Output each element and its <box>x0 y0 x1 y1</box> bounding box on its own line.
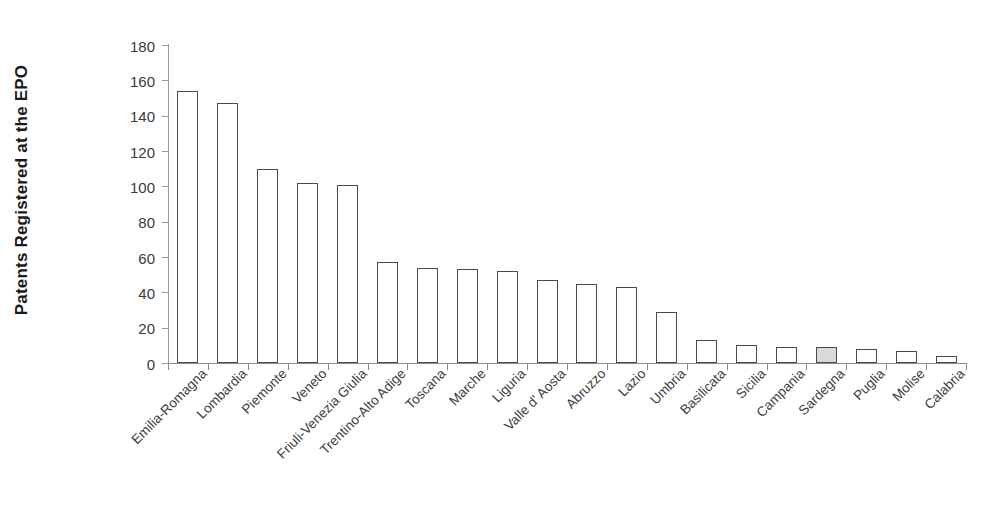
bar <box>417 268 438 363</box>
bar <box>297 183 318 363</box>
x-axis-label: Lazio <box>615 366 648 399</box>
bar <box>616 287 637 363</box>
bar <box>736 345 757 363</box>
x-axis-label: Toscana <box>403 366 449 412</box>
y-tick-label: 140 <box>130 108 155 125</box>
y-tick: 40 <box>162 292 169 293</box>
y-axis-title-container: Patents Registered at the EPO <box>0 0 44 380</box>
y-axis-line <box>168 44 169 364</box>
y-tick: 180 <box>162 45 169 46</box>
y-tick: 160 <box>162 80 169 81</box>
plot-area: 020406080100120140160180 <box>168 45 966 363</box>
y-tick: 100 <box>162 186 169 187</box>
y-tick: 120 <box>162 151 169 152</box>
y-tick-label: 20 <box>138 320 155 337</box>
x-axis-label: Puglia <box>851 366 888 403</box>
y-axis-title: Patents Registered at the EPO <box>12 65 32 315</box>
bar <box>896 351 917 363</box>
y-tick: 80 <box>162 222 169 223</box>
bar <box>776 347 797 363</box>
x-axis-label: Sicilia <box>733 366 769 402</box>
y-tick: 60 <box>162 257 169 258</box>
y-tick-label: 40 <box>138 284 155 301</box>
bar <box>576 284 597 364</box>
x-tick <box>966 363 967 370</box>
bar <box>537 280 558 363</box>
bar <box>217 103 238 363</box>
y-tick: 140 <box>162 116 169 117</box>
bar <box>656 312 677 363</box>
y-tick-label: 160 <box>130 72 155 89</box>
x-axis-labels: Emilia-RomagnaLombardiaPiemonteVenetoFri… <box>168 366 966 526</box>
bar <box>377 262 398 363</box>
bar <box>856 349 877 363</box>
y-tick-label: 60 <box>138 249 155 266</box>
x-axis-label: Marche <box>446 366 488 408</box>
chart-figure: Patents Registered at the EPO 0204060801… <box>0 0 991 527</box>
bar <box>816 347 837 363</box>
y-tick: 20 <box>162 328 169 329</box>
bar <box>177 91 198 363</box>
x-axis-label: Abruzzo <box>563 366 609 412</box>
x-axis-label: Molise <box>890 366 928 404</box>
y-tick-label: 180 <box>130 37 155 54</box>
y-tick-label: 80 <box>138 214 155 231</box>
bar <box>696 340 717 363</box>
y-tick-label: 120 <box>130 143 155 160</box>
x-axis-label: Calabria <box>921 366 967 412</box>
bar <box>497 271 518 363</box>
bar <box>457 269 478 363</box>
bar <box>936 356 957 363</box>
bar <box>337 185 358 363</box>
bar <box>257 169 278 363</box>
y-tick-label: 100 <box>130 178 155 195</box>
y-tick-label: 0 <box>147 355 155 372</box>
